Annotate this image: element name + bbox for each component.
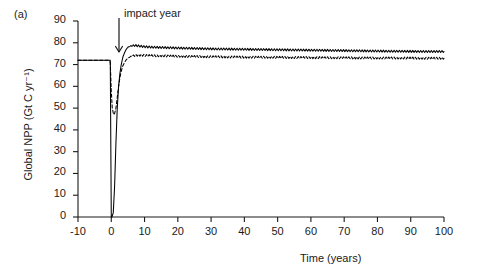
- x-tick-label: 10: [130, 225, 160, 237]
- y-tick-label: 90: [40, 13, 66, 25]
- x-axis-title: Time (years): [300, 252, 361, 264]
- y-tick-label: 0: [40, 209, 66, 221]
- x-tick-label: 40: [229, 225, 259, 237]
- y-tick-label: 10: [40, 187, 66, 199]
- x-tick-label: 30: [196, 225, 226, 237]
- y-tick-label: 80: [40, 35, 66, 47]
- x-tick-label: 50: [263, 225, 293, 237]
- y-axis-title: Global NPP (Gt C yr⁻¹): [22, 45, 35, 205]
- series-line-solid: [78, 45, 444, 217]
- x-tick-label: -10: [63, 225, 93, 237]
- x-tick-label: 70: [329, 225, 359, 237]
- x-tick-label: 20: [163, 225, 193, 237]
- x-tick-label: 100: [429, 225, 459, 237]
- y-tick-label: 70: [40, 57, 66, 69]
- series-line-dashed: [78, 54, 444, 114]
- x-tick-label: 0: [96, 225, 126, 237]
- figure-panel: (a) impact year Global NPP (Gt C yr⁻¹) T…: [0, 0, 478, 277]
- data-series-group: [78, 45, 444, 217]
- y-tick-label: 30: [40, 144, 66, 156]
- y-tick-label: 60: [40, 78, 66, 90]
- x-tick-label: 80: [362, 225, 392, 237]
- y-tick-label: 40: [40, 122, 66, 134]
- x-tick-label: 60: [296, 225, 326, 237]
- y-tick-label: 50: [40, 100, 66, 112]
- down-arrow-icon: [116, 18, 123, 52]
- x-tick-label: 90: [396, 225, 426, 237]
- y-tick-label: 20: [40, 165, 66, 177]
